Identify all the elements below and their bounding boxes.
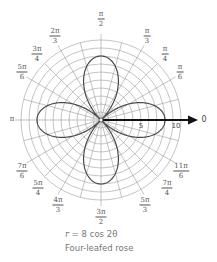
fraction-denominator: 3 xyxy=(145,37,149,45)
angle-fraction: π4 xyxy=(162,46,169,63)
angle-label-text: π xyxy=(10,115,15,123)
angle-fraction: π2 xyxy=(98,11,105,28)
fraction-numerator: π xyxy=(144,28,151,37)
angle-label: π6 xyxy=(177,64,184,81)
fraction-denominator: 6 xyxy=(20,172,24,180)
r-tick-10: 10 xyxy=(172,122,181,130)
fraction-numerator: 3π xyxy=(31,46,42,55)
angle-label: 3π2 xyxy=(95,209,106,226)
angle-label: 3π4 xyxy=(31,46,42,63)
fraction-numerator: 11π xyxy=(173,163,189,172)
angle-label: π xyxy=(10,116,15,123)
angle-label: 5π4 xyxy=(32,180,43,197)
polar-plot xyxy=(0,0,217,262)
angle-label: π3 xyxy=(144,28,151,45)
angle-label: 4π3 xyxy=(52,197,63,214)
fraction-denominator: 4 xyxy=(165,189,169,197)
angle-fraction: 4π3 xyxy=(52,197,63,214)
fraction-denominator: 6 xyxy=(178,73,182,81)
angle-fraction: π3 xyxy=(144,28,151,45)
equation-caption: r = 8 cos 2θ xyxy=(65,229,117,239)
fraction-numerator: 5π xyxy=(16,64,27,73)
fraction-denominator: 3 xyxy=(56,206,60,214)
angle-fraction: 5π6 xyxy=(16,64,27,81)
fraction-numerator: 3π xyxy=(95,209,106,218)
angle-label: 7π4 xyxy=(161,180,172,197)
angle-fraction: 5π4 xyxy=(32,180,43,197)
angle-fraction: 5π3 xyxy=(139,197,150,214)
fraction-denominator: 4 xyxy=(35,55,39,63)
fraction-numerator: π xyxy=(98,11,105,20)
angle-label: 5π6 xyxy=(16,64,27,81)
angle-label: 11π6 xyxy=(173,163,189,180)
fraction-numerator: 4π xyxy=(52,197,63,206)
fraction-numerator: 7π xyxy=(161,180,172,189)
angle-fraction: 7π4 xyxy=(161,180,172,197)
angle-fraction: π6 xyxy=(177,64,184,81)
fraction-denominator: 6 xyxy=(179,172,183,180)
fraction-numerator: 5π xyxy=(139,197,150,206)
polar-axis-label: 0 xyxy=(201,115,206,124)
angle-fraction: 3π4 xyxy=(31,46,42,63)
fraction-denominator: 2 xyxy=(99,20,103,28)
fraction-numerator: 2π xyxy=(49,28,60,37)
r-tick-5: 5 xyxy=(139,122,143,130)
fraction-denominator: 3 xyxy=(53,37,57,45)
chart-title: Four-leafed rose xyxy=(65,243,133,253)
fraction-denominator: 6 xyxy=(20,73,24,81)
angle-label: π4 xyxy=(162,46,169,63)
fraction-numerator: 7π xyxy=(16,163,27,172)
angle-fraction: 3π2 xyxy=(95,209,106,226)
fraction-denominator: 4 xyxy=(36,189,40,197)
fraction-denominator: 2 xyxy=(99,218,103,226)
fraction-denominator: 3 xyxy=(143,206,147,214)
equation-text: = 8 cos 2θ xyxy=(69,229,117,239)
angle-fraction: 2π3 xyxy=(49,28,60,45)
angle-label: 7π6 xyxy=(16,163,27,180)
angle-label: 2π3 xyxy=(49,28,60,45)
fraction-denominator: 4 xyxy=(163,55,167,63)
angle-fraction: 11π6 xyxy=(173,163,189,180)
fraction-numerator: π xyxy=(162,46,169,55)
fraction-numerator: 5π xyxy=(32,180,43,189)
fraction-numerator: π xyxy=(177,64,184,73)
arrowhead-icon xyxy=(188,116,198,125)
angle-label: π2 xyxy=(98,11,105,28)
angle-fraction: 7π6 xyxy=(16,163,27,180)
angle-label: 5π3 xyxy=(139,197,150,214)
